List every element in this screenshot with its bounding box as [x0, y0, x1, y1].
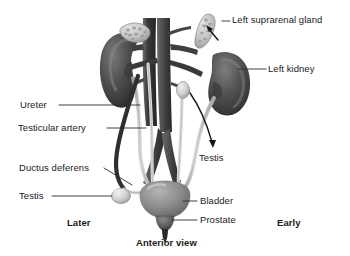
- prostate: [156, 216, 174, 230]
- left-ureter: [183, 98, 214, 190]
- left-suprarenal-branch: [168, 26, 191, 35]
- early-testis-group: [177, 82, 190, 99]
- testis-early-position: [177, 82, 190, 99]
- label-ureter: Ureter: [20, 99, 47, 110]
- label-bladder: Bladder: [200, 195, 233, 206]
- left-renal-artery: [170, 60, 203, 77]
- label-testis-early: Testis: [199, 152, 224, 163]
- label-ductus-deferens: Ductus deferens: [19, 162, 89, 173]
- left-kidney-group: [208, 52, 250, 115]
- figure-canvas: Left suprarenal gland Left kidney Ureter…: [0, 0, 350, 256]
- label-left-suprarenal-gland: Left suprarenal gland: [232, 14, 322, 25]
- label-testicular-artery: Testicular artery: [18, 122, 86, 133]
- left-suprarenal-gland-group: [195, 14, 215, 48]
- descended-testis-group: [112, 189, 131, 204]
- bladder: [140, 181, 190, 218]
- left-renal-vein: [170, 44, 198, 55]
- label-left-kidney: Left kidney: [268, 63, 315, 74]
- bladder-prostate-group: [140, 181, 190, 243]
- label-testis-descended: Testis: [19, 190, 44, 201]
- marker-later: Later: [67, 217, 90, 228]
- left-testicular-vessels: [178, 92, 182, 190]
- figure-caption: Anterior view: [136, 237, 197, 248]
- label-prostate: Prostate: [200, 214, 236, 225]
- abdominal-aorta: [157, 18, 172, 132]
- marker-early: Early: [277, 217, 301, 228]
